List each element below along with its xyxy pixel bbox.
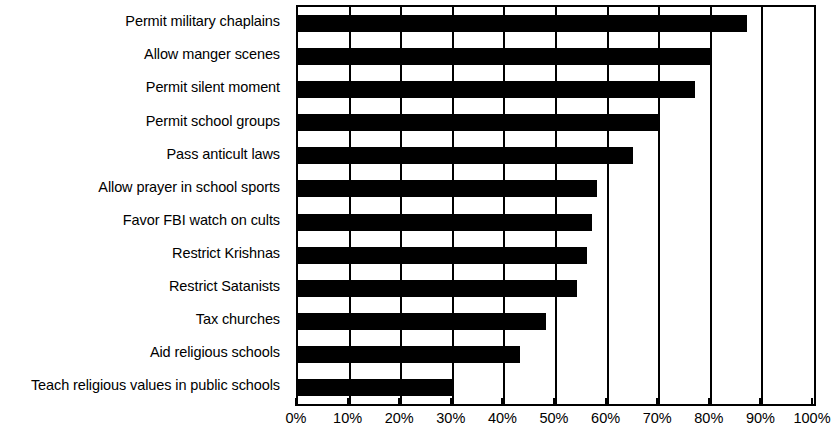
category-label: Permit school groups [0, 104, 288, 137]
bar [298, 15, 747, 32]
category-label: Permit silent moment [0, 71, 288, 104]
bar-row [298, 40, 814, 73]
bar-row [298, 239, 814, 272]
bar-row [298, 73, 814, 106]
bar [298, 313, 546, 330]
bar [298, 114, 659, 131]
bar [298, 81, 695, 98]
bar [298, 379, 453, 396]
category-label: Favor FBI watch on cults [0, 203, 288, 236]
x-tick-label: 10% [333, 411, 362, 426]
x-tick-mark [450, 398, 452, 406]
x-tick-label: 70% [643, 411, 672, 426]
plot-area [296, 5, 816, 406]
x-tick-label: 100% [793, 411, 830, 426]
x-tick-label: 40% [488, 411, 517, 426]
x-tick-label: 80% [694, 411, 723, 426]
category-axis-labels: Permit military chaplains Allow manger s… [0, 5, 288, 402]
x-tick-mark [759, 398, 761, 406]
x-axis: 0%10%20%30%40%50%60%70%80%90%100% [296, 404, 812, 445]
bar-row [298, 139, 814, 172]
bar [298, 214, 592, 231]
x-tick-mark [605, 398, 607, 406]
horizontal-bar-chart: Permit military chaplains Allow manger s… [0, 0, 831, 445]
bar-row [298, 205, 814, 238]
x-tick-mark [708, 398, 710, 406]
x-tick-mark [295, 398, 297, 406]
x-tick-label: 0% [286, 411, 307, 426]
category-label: Allow manger scenes [0, 38, 288, 71]
bar [298, 147, 633, 164]
x-tick-mark [553, 398, 555, 406]
x-tick-label: 50% [539, 411, 568, 426]
x-tick-label: 60% [591, 411, 620, 426]
bar [298, 48, 711, 65]
category-label: Tax churches [0, 303, 288, 336]
category-label: Restrict Krishnas [0, 237, 288, 270]
x-tick-mark [501, 398, 503, 406]
x-tick-mark [811, 398, 813, 406]
bar-row [298, 338, 814, 371]
category-label: Teach religious values in public schools [0, 369, 288, 402]
category-label: Permit military chaplains [0, 5, 288, 38]
bar [298, 247, 587, 264]
bar [298, 280, 577, 297]
bar-row [298, 106, 814, 139]
bar [298, 180, 597, 197]
x-tick-mark [656, 398, 658, 406]
category-label: Pass anticult laws [0, 137, 288, 170]
bar-row [298, 7, 814, 40]
x-tick-label: 20% [385, 411, 414, 426]
bar-row [298, 305, 814, 338]
category-label: Restrict Satanists [0, 270, 288, 303]
bar [298, 346, 520, 363]
bar-row [298, 172, 814, 205]
x-tick-mark [398, 398, 400, 406]
x-tick-label: 90% [746, 411, 775, 426]
x-tick-mark [347, 398, 349, 406]
category-label: Aid religious schools [0, 336, 288, 369]
bars-layer [298, 7, 814, 404]
bar-row [298, 371, 814, 404]
x-tick-label: 30% [436, 411, 465, 426]
bar-row [298, 272, 814, 305]
category-label: Allow prayer in school sports [0, 170, 288, 203]
